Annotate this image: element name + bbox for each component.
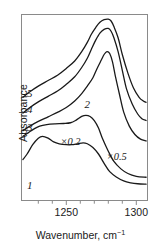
x-axis-ticks xyxy=(38,201,136,206)
y-axis-label: Absorbance xyxy=(17,48,29,178)
x-axis-label: Wavenumber, cm−1 xyxy=(0,229,161,241)
x-tick-label-1250: 1250 xyxy=(49,206,83,218)
x-tick-label-1300: 1300 xyxy=(119,206,153,218)
annotation-scale-02: ×0.2 xyxy=(60,136,81,147)
curve-label-2: 2 xyxy=(85,98,91,110)
spectrum-figure: Absorbance 12345 ×0.2×0.5 1250 1300 Wave… xyxy=(0,0,161,250)
x-axis-label-exponent: −1 xyxy=(117,228,125,237)
x-axis-label-text: Wavenumber, cm xyxy=(36,229,117,241)
curve-label-1: 1 xyxy=(27,179,32,191)
annotation-scale-05: ×0.5 xyxy=(107,151,127,162)
